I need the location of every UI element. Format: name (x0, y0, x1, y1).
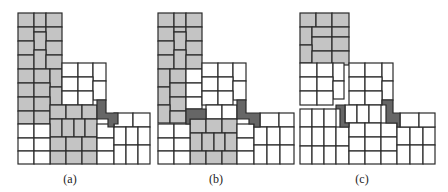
gray-cell (300, 27, 312, 45)
gray-cell (190, 119, 206, 133)
white-cell (93, 81, 106, 100)
white-cell (336, 146, 349, 164)
white-cell (126, 145, 138, 164)
white-cell (174, 138, 190, 151)
white-cell (381, 151, 397, 164)
white-cell (158, 124, 174, 138)
white-cell (237, 138, 254, 151)
white-cell (397, 127, 410, 145)
gray-cell (34, 50, 46, 69)
white-cell (218, 63, 233, 77)
gray-cell (50, 69, 62, 87)
white-cell (312, 109, 324, 127)
gray-cell (50, 137, 66, 151)
white-cell (357, 105, 369, 123)
white-cell (300, 109, 312, 127)
gray-cell (206, 151, 222, 164)
gray-cell (46, 13, 62, 27)
white-cell (93, 63, 106, 81)
panel-c (300, 13, 435, 164)
gray-cell (46, 27, 62, 41)
white-cell (410, 127, 423, 145)
white-cell (349, 63, 365, 77)
white-cell (382, 63, 393, 81)
white-cell (365, 151, 381, 164)
white-cell (365, 63, 382, 77)
white-cell (62, 63, 78, 77)
white-cell (410, 145, 423, 164)
white-cell (400, 113, 419, 127)
white-cell (202, 63, 218, 77)
white-cell (218, 77, 233, 91)
gray-cell (174, 27, 186, 32)
white-cell (34, 138, 50, 151)
white-cell (317, 77, 333, 91)
gray-cell (158, 87, 170, 105)
gray-cell (18, 27, 34, 41)
panel-a (18, 13, 150, 164)
gray-cell (158, 105, 170, 123)
white-cell (423, 145, 435, 164)
gray-cell (225, 133, 237, 151)
gray-cell (214, 133, 225, 151)
white-cell (333, 63, 344, 81)
white-cell (349, 151, 365, 164)
gray-cell (312, 27, 332, 37)
white-cell (34, 151, 50, 164)
gray-cell (158, 27, 174, 41)
white-cell (186, 97, 202, 109)
white-cell (382, 81, 393, 100)
gray-cell (18, 13, 34, 27)
gray-cell (50, 119, 62, 137)
white-cell (423, 127, 435, 145)
white-cell (158, 151, 174, 164)
panel-label-c: (c) (342, 172, 382, 187)
gray-cell (34, 13, 46, 27)
white-cell (349, 137, 365, 151)
gray-cell (18, 41, 34, 55)
gray-cell (222, 151, 237, 164)
gray-cell (190, 133, 202, 151)
gray-cell (18, 97, 34, 111)
white-cell (333, 81, 344, 99)
gray-cell (174, 32, 186, 50)
white-cell (365, 77, 382, 91)
gray-cell (82, 105, 97, 119)
gray-cell (50, 151, 66, 164)
gray-cell (332, 27, 349, 37)
white-cell (324, 127, 336, 146)
gray-cell (332, 13, 349, 27)
white-cell (206, 105, 222, 119)
gray-cell (202, 133, 214, 151)
gray-cell (34, 83, 50, 97)
white-cell (62, 77, 78, 91)
gray-cell (18, 55, 34, 69)
white-cell (114, 145, 126, 164)
white-cell (114, 127, 126, 145)
dark-region (237, 100, 260, 127)
gray-cell (66, 105, 82, 119)
white-cell (222, 105, 237, 119)
dark-region (97, 100, 118, 127)
white-cell (138, 127, 150, 145)
white-cell (233, 63, 246, 81)
gray-cell (74, 119, 85, 137)
white-cell (365, 91, 382, 105)
white-cell (126, 127, 138, 145)
gray-cell (82, 151, 97, 164)
white-cell (419, 113, 435, 127)
gray-cell (174, 50, 186, 69)
gray-cell (170, 111, 186, 123)
panel-label-a: (a) (50, 172, 90, 187)
white-cell (300, 63, 317, 77)
gray-cell (158, 41, 174, 55)
gray-cell (312, 37, 332, 51)
white-cell (345, 105, 357, 123)
white-cell (186, 83, 202, 97)
white-cell (254, 127, 267, 145)
gray-cell (66, 137, 82, 151)
white-cell (324, 109, 336, 127)
white-cell (317, 63, 333, 77)
white-cell (349, 77, 365, 91)
white-cell (34, 124, 50, 138)
